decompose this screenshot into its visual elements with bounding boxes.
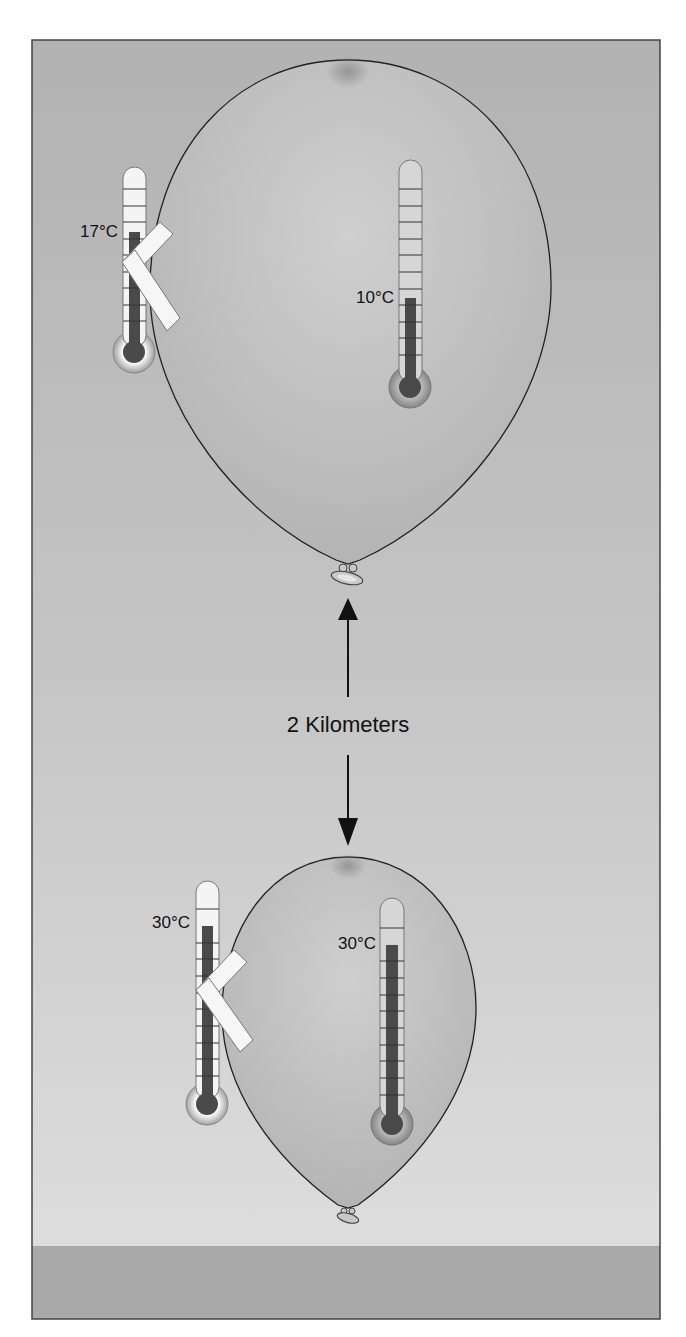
lower-outside-temp-label: 30°C — [130, 914, 190, 931]
upper-outside-temp-label: 17°C — [58, 223, 118, 240]
ground — [32, 1246, 660, 1319]
lower-inside-temp-label: 30°C — [316, 935, 376, 952]
distance-label: 2 Kilometers — [248, 714, 448, 736]
upper-inside-temp-label: 10°C — [334, 289, 394, 306]
balloon-diagram — [0, 0, 686, 1337]
